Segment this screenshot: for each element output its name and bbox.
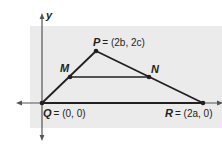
point-m bbox=[68, 75, 73, 80]
label-n: N bbox=[151, 63, 160, 75]
label-m: M bbox=[60, 62, 70, 74]
point-p bbox=[94, 49, 99, 54]
point-r bbox=[201, 101, 206, 106]
label-r: R= (2a, 0) bbox=[165, 107, 212, 119]
triangle-midsegment-diagram: y P= (2b, 2c) M N Q= (0, 0) R= (2a, 0) bbox=[0, 0, 222, 153]
label-q: Q= (0, 0) bbox=[43, 107, 86, 119]
point-n bbox=[147, 75, 152, 80]
y-axis-label: y bbox=[45, 9, 53, 21]
point-q bbox=[40, 101, 45, 106]
